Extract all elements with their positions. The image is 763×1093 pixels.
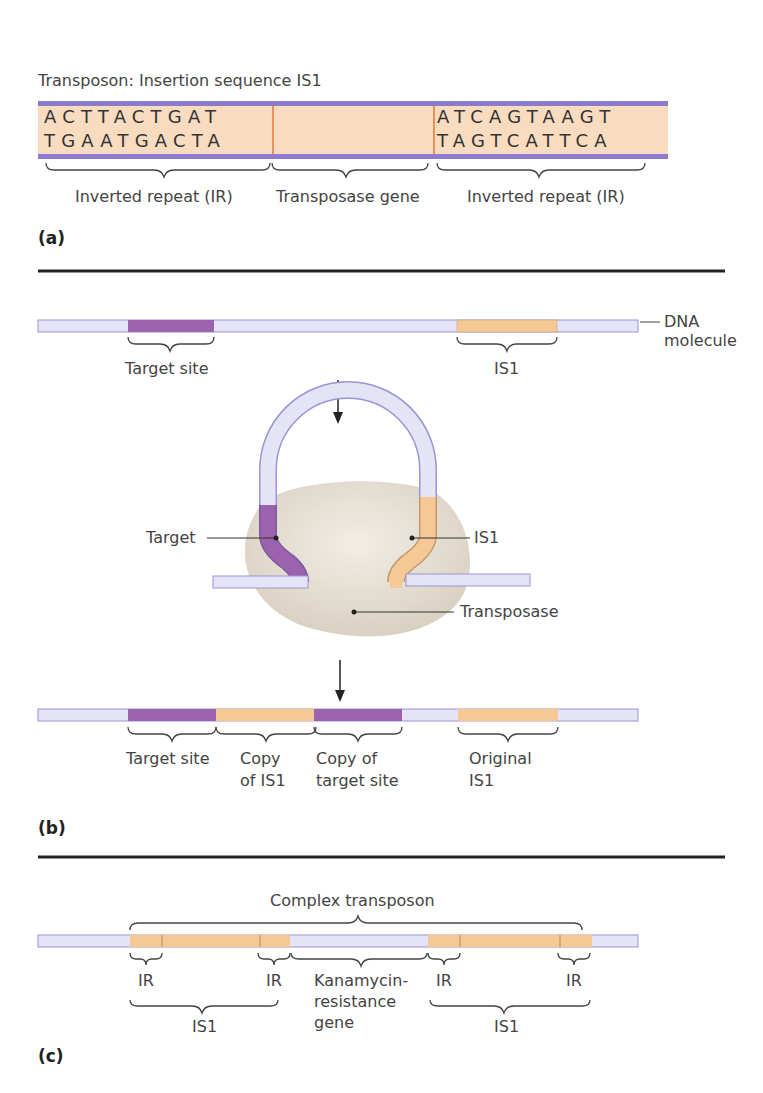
label-copy-target-2: target site <box>316 770 399 792</box>
label-is1-left: IS1 <box>192 1016 217 1038</box>
left-ir-bottom-strand: TGAATGACTA <box>44 130 226 152</box>
label-molecule: molecule <box>664 330 737 352</box>
right-ir-top-strand: ATCAGTAAGT <box>437 106 616 128</box>
label-copy-is1-2: of IS1 <box>240 770 286 792</box>
label-left-ir: Inverted repeat (IR) <box>75 186 233 208</box>
label-is1-right: IS1 <box>494 1016 519 1038</box>
complex-transposon-dna <box>38 935 638 947</box>
label-complex-transposon: Complex transposon <box>270 890 435 912</box>
panel-a-title: Transposon: Insertion sequence IS1 <box>38 70 322 92</box>
label-is1-top: IS1 <box>494 358 519 380</box>
left-ir-top-strand: ACTTACTGAT <box>44 106 222 128</box>
label-transposase-gene: Transposase gene <box>276 186 420 208</box>
label-target-site: Target site <box>125 358 208 380</box>
panel-c-tag: (c) <box>38 1046 64 1066</box>
label-kanamycin-3: gene <box>314 1012 354 1034</box>
label-copy-is1-1: Copy <box>240 748 281 770</box>
label-ir-2: IR <box>266 970 282 992</box>
label-kanamycin-2: resistance <box>314 991 396 1013</box>
transposase-complex <box>207 390 530 636</box>
label-ir-3: IR <box>436 970 452 992</box>
label-original-2: IS1 <box>469 770 494 792</box>
label-transposase: Transposase <box>460 601 559 623</box>
right-ir-bottom-strand: TAGTCATTCA <box>437 130 613 152</box>
down-arrow-2 <box>335 660 345 702</box>
panel-a-tag: (a) <box>38 228 65 248</box>
panel-a-braces <box>46 163 645 177</box>
transposon-figure <box>0 0 763 1093</box>
label-copy-target-1: Copy of <box>316 748 377 770</box>
label-target: Target <box>146 527 196 549</box>
label-original-1: Original <box>469 748 532 770</box>
label-kanamycin-1: Kanamycin- <box>314 970 408 992</box>
panel-b-tag: (b) <box>38 818 66 838</box>
label-result-target-site: Target site <box>126 748 209 770</box>
label-ir-1: IR <box>138 970 154 992</box>
dna-molecule-top <box>38 320 660 332</box>
label-is1-complex: IS1 <box>474 527 499 549</box>
dna-molecule-result <box>38 709 638 721</box>
label-right-ir: Inverted repeat (IR) <box>467 186 625 208</box>
label-ir-4: IR <box>566 970 582 992</box>
